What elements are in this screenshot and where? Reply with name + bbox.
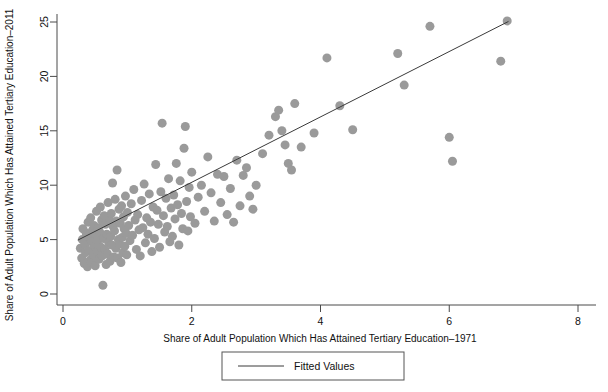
data-point (400, 81, 409, 90)
data-point (265, 131, 274, 140)
data-point (127, 199, 136, 208)
y-tick-label: 25 (38, 16, 50, 28)
data-point (98, 281, 107, 290)
fitted-line (78, 21, 509, 240)
data-point (274, 106, 283, 115)
data-point (146, 218, 155, 227)
data-point (174, 241, 183, 250)
data-point (180, 144, 189, 153)
data-point (242, 163, 251, 172)
data-point (245, 192, 254, 201)
data-point (141, 238, 150, 247)
data-point (248, 205, 257, 214)
data-point (181, 122, 190, 131)
data-point (229, 218, 238, 227)
data-point (163, 222, 172, 231)
data-point (96, 202, 105, 211)
data-point (177, 209, 186, 218)
y-tick-label: 0 (38, 291, 50, 297)
data-point (393, 49, 402, 58)
y-axis-title: Share of Adult Population Which Has Atta… (4, 8, 15, 321)
data-point (182, 197, 191, 206)
data-point (110, 226, 119, 235)
scatter-points-group (76, 16, 512, 289)
data-point (159, 211, 168, 220)
data-point (200, 207, 209, 216)
data-point (129, 185, 138, 194)
x-tick-label: 6 (446, 315, 452, 327)
data-point (154, 220, 163, 229)
data-point (122, 250, 131, 259)
data-point (113, 165, 122, 174)
data-point (190, 219, 199, 228)
data-point (107, 209, 116, 218)
x-tick-label: 0 (60, 315, 66, 327)
data-point (210, 217, 219, 226)
data-point (145, 189, 154, 198)
data-point (252, 181, 261, 190)
legend-label-fitted-values: Fitted Values (294, 360, 355, 372)
data-point (348, 125, 357, 134)
data-point (258, 149, 267, 158)
data-point (137, 196, 146, 205)
data-point (425, 22, 434, 31)
data-point (108, 179, 117, 188)
data-point (136, 251, 145, 260)
y-tick-label: 20 (38, 70, 50, 82)
data-point (216, 198, 225, 207)
x-tick-label: 4 (318, 315, 324, 327)
data-point (223, 210, 232, 219)
data-point (116, 258, 125, 267)
data-point (185, 183, 194, 192)
data-point (219, 172, 228, 181)
data-point (172, 159, 181, 168)
data-point (150, 234, 159, 243)
data-point (322, 53, 331, 62)
x-axis-title: Share of Adult Population Which Has Atta… (163, 333, 477, 344)
data-point (111, 195, 120, 204)
data-point (287, 165, 296, 174)
data-point (226, 184, 235, 193)
data-point (448, 157, 457, 166)
data-point (203, 152, 212, 161)
data-point (164, 174, 173, 183)
x-tick-label: 2 (189, 315, 195, 327)
data-point (277, 126, 286, 135)
data-point (445, 133, 454, 142)
data-point (123, 208, 132, 217)
data-point (207, 188, 216, 197)
data-point (147, 247, 156, 256)
y-tick-label: 5 (38, 237, 50, 243)
data-point (173, 200, 182, 209)
data-point (236, 201, 245, 210)
x-tick-label: 8 (575, 315, 581, 327)
y-tick-label: 10 (38, 179, 50, 191)
data-point (176, 176, 185, 185)
data-point (197, 181, 206, 190)
data-point (151, 160, 160, 169)
data-point (121, 192, 130, 201)
data-point (187, 168, 196, 177)
data-point (310, 128, 319, 137)
data-point (155, 243, 164, 252)
data-point (496, 57, 505, 66)
data-point (158, 119, 167, 128)
scatter-plot: 051015202502468Share of Adult Population… (0, 0, 608, 392)
y-tick-label: 15 (38, 125, 50, 137)
data-point (281, 140, 290, 149)
data-point (232, 156, 241, 165)
data-point (297, 143, 306, 152)
chart-figure: 051015202502468Share of Adult Population… (0, 0, 608, 392)
data-point (168, 232, 177, 241)
data-point (290, 99, 299, 108)
data-point (140, 180, 149, 189)
data-point (194, 193, 203, 202)
data-point (183, 226, 192, 235)
